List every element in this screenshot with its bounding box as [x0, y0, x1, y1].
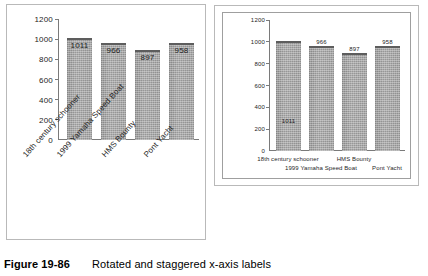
y-tickmark-400 — [266, 107, 269, 108]
y-tickmark-600 — [55, 79, 58, 80]
y-tickmark-1000 — [55, 39, 58, 40]
y-tickmark-600 — [266, 85, 269, 86]
bar-value-hms-bounty: 897 — [337, 46, 372, 52]
y-tickmark-800 — [266, 63, 269, 64]
plot-area: 1011 966 897 958 — [270, 20, 403, 151]
chart-staggered-labels: 1200 1000 800 600 400 200 0 1011 966 897… — [214, 5, 419, 186]
y-tickmark-200 — [266, 129, 269, 130]
x-label-hms-bounty: HMS Bounty — [337, 156, 372, 162]
y-tickmark-1000 — [266, 41, 269, 42]
figure-caption: Figure 19-86 Rotated and staggered x-axi… — [4, 256, 424, 272]
chart-rotated-labels: 1200 1000 800 600 400 200 0 1011 966 897… — [6, 4, 206, 240]
bar-value-hms-bounty: 897 — [130, 53, 165, 62]
bar-value-18th-century-schooner: 1011 — [271, 118, 306, 124]
bar-value-18th-century-schooner: 1011 — [62, 41, 97, 50]
bar-pont-yacht — [169, 43, 194, 140]
bar-pont-yacht — [375, 46, 400, 151]
y-tickmark-1200 — [266, 20, 269, 21]
bar-value-pont-yacht: 958 — [164, 46, 199, 55]
bar-hms-bounty — [135, 50, 160, 141]
y-tickmark-800 — [55, 59, 58, 60]
bar-value-pont-yacht: 958 — [370, 39, 405, 45]
bar-1999-yamaha-speed-boat — [309, 46, 334, 152]
x-label-pont-yacht: Pont Yacht — [372, 165, 402, 171]
x-label-18th-century-schooner: 18th century schooner — [257, 156, 318, 162]
y-tickmark-400 — [55, 99, 58, 100]
bar-18th-century-schooner — [276, 41, 301, 151]
bar-value-1999-yamaha-speed-boat: 966 — [304, 39, 339, 45]
figure-number: Figure 19-86 — [4, 258, 70, 270]
x-label-1999-yamaha-speed-boat: 1999 Yamaha Speed Boat — [285, 165, 357, 171]
y-tickmark-1200 — [55, 19, 58, 20]
bar-value-1999-yamaha-speed-boat: 966 — [96, 46, 131, 55]
figure-caption-text: Rotated and staggered x-axis labels — [92, 258, 271, 270]
bar-hms-bounty — [342, 53, 367, 151]
